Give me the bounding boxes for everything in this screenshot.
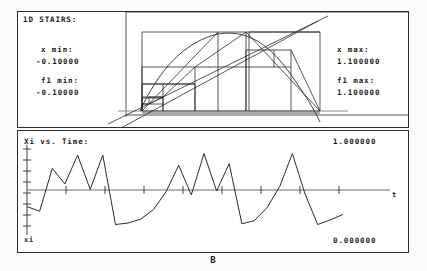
timeseries-y-axis-label: xi bbox=[24, 236, 34, 245]
cobweb-orbit bbox=[142, 32, 320, 113]
map-function-curve bbox=[140, 33, 320, 122]
application-screen: 1D STAIRS: x min: -0.10000 f1 min: -0.10… bbox=[0, 0, 427, 271]
timeseries-min-value: 0.000000 bbox=[333, 236, 376, 245]
timeseries-chart bbox=[18, 131, 408, 252]
stairs-panel-title: 1D STAIRS: bbox=[23, 15, 77, 24]
x-max-label: x max: bbox=[337, 45, 370, 54]
x-min-value: -0.10000 bbox=[36, 57, 79, 66]
f1-max-value: 1.100000 bbox=[337, 88, 380, 97]
timeseries-t-axis-label: t bbox=[392, 191, 397, 200]
cobweb-diagram bbox=[18, 12, 408, 127]
timeseries-max-value: 1.000000 bbox=[333, 137, 376, 146]
timeseries-title: Xi vs. Time: bbox=[24, 137, 89, 146]
timeseries-line bbox=[27, 154, 343, 225]
x-max-value: 1.100000 bbox=[337, 57, 380, 66]
f1-max-label: f1 max: bbox=[337, 76, 375, 85]
x-min-label: x min: bbox=[41, 45, 74, 54]
f1-min-value: -0.10000 bbox=[36, 88, 79, 97]
figure-caption: B bbox=[0, 255, 427, 265]
f1-min-label: f1 min: bbox=[41, 76, 79, 85]
